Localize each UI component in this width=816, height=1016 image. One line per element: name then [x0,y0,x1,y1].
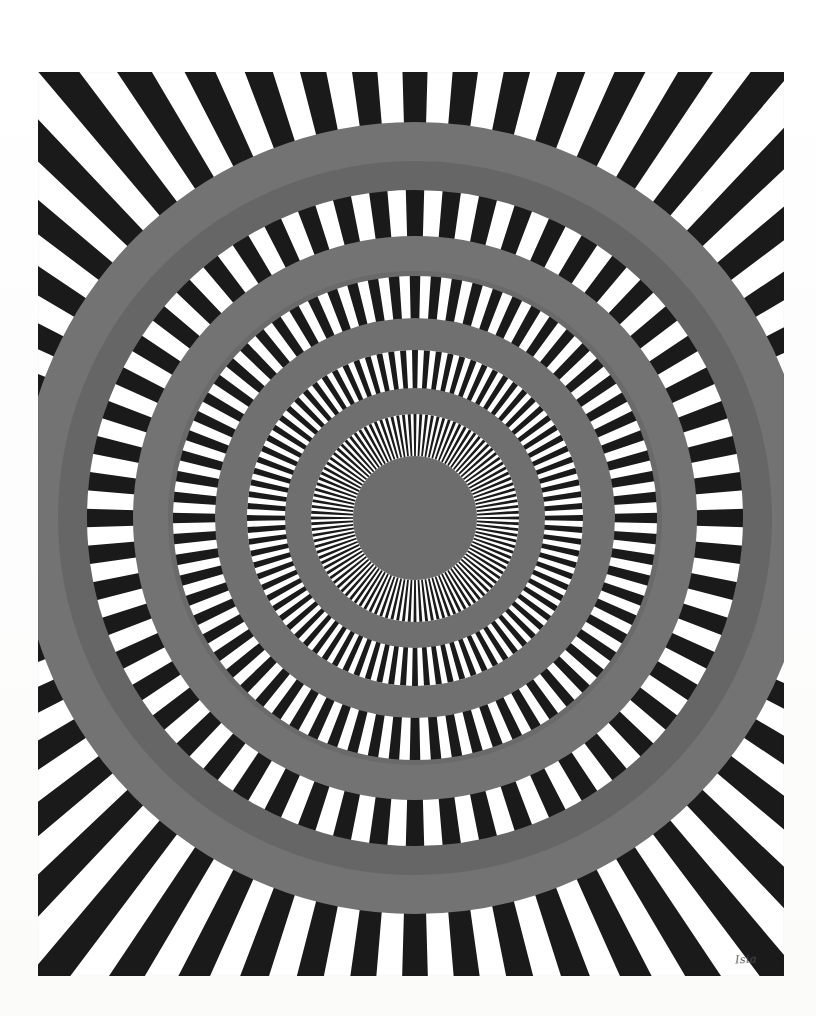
artwork-frame: Isia [0,0,816,1016]
print-image-area [38,72,784,976]
artist-signature: Isia [735,952,757,966]
center-gray-disc [353,456,477,580]
